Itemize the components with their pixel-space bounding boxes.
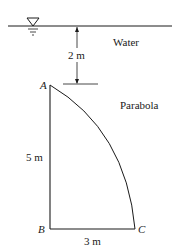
- water-label: Water: [113, 36, 139, 48]
- point-a-label: A: [39, 79, 47, 91]
- height-label: 5 m: [26, 151, 43, 163]
- gate-diagram: 2 m Water A B C Parabola 5 m 3 m: [0, 0, 172, 251]
- point-b-label: B: [38, 223, 45, 235]
- curve-label: Parabola: [120, 99, 159, 111]
- point-c-label: C: [138, 223, 146, 235]
- depth-label: 2 m: [68, 49, 85, 61]
- width-label: 3 m: [84, 235, 101, 247]
